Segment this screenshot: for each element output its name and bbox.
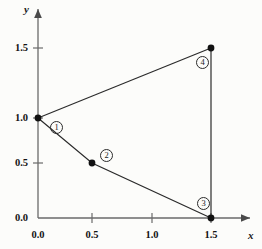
node-tag-4: 4 [196,56,209,69]
node-tag-3: 3 [197,197,210,210]
edge-upper [38,48,211,118]
node-marker-4 [208,45,215,52]
y-tick-label-0.0: 0.0 [0,212,28,223]
y-tick-label-1.0: 1.0 [0,112,28,123]
x-tick-label-1.5: 1.5 [196,229,226,240]
plot-figure: y x 1.5 1.0 0.5 0.0 0.0 0.5 1.0 1.5 1 2 … [0,0,262,249]
x-axis-label: x [248,229,254,241]
plot-canvas [0,0,262,249]
node-tag-2: 2 [100,149,113,162]
y-tick-label-0.5: 0.5 [0,157,28,168]
y-tick-label-1.5: 1.5 [0,42,28,53]
node-marker-1 [35,115,42,122]
x-tick-label-1.0: 1.0 [137,229,167,240]
x-tick-label-0.0: 0.0 [23,229,53,240]
node-marker-3 [208,215,215,222]
node-tag-1: 1 [50,121,63,134]
edge-lower [38,118,211,218]
x-tick-label-0.5: 0.5 [77,229,107,240]
node-marker-2 [89,160,96,167]
y-axis-label: y [24,3,29,15]
